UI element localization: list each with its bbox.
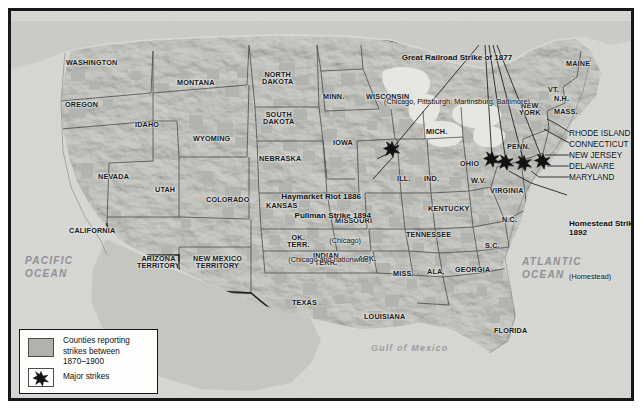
annotation-title: Homestead Strike 1892 — [569, 219, 634, 237]
state-label-california: CALIFORNIA — [69, 227, 115, 234]
state-label-illinois: ILL. — [397, 175, 411, 182]
state-label-north-carolina: N.C. — [502, 216, 517, 223]
callout-label-maryland: MARYLAND — [569, 173, 614, 182]
state-label-mississippi: MISS. — [393, 270, 414, 277]
state-label-nevada: NEVADA — [98, 173, 129, 180]
state-label-texas: TEXAS — [292, 299, 317, 306]
callout-label-delaware: DELAWARE — [569, 162, 614, 171]
annotation-homestead-strike: Homestead Strike 1892 (Homestead) — [569, 183, 634, 317]
legend-star-swatch — [28, 368, 54, 387]
state-label-idaho: IDAHO — [135, 121, 159, 128]
map-legend: Counties reporting strikes between 1870–… — [19, 329, 158, 394]
state-label-kentucky: KENTUCKY — [428, 205, 470, 212]
annotation-subtitle: (Chicago, Pittsburgh, Martinsburg, Balti… — [317, 98, 597, 106]
state-label-georgia: GEORGIA — [455, 266, 490, 273]
gulf-of-mexico-label: Gulf of Mexico — [371, 343, 448, 353]
callout-label-new-jersey: NEW JERSEY — [569, 151, 622, 160]
annotation-subtitle: (Homestead) — [569, 273, 634, 281]
state-label-florida: FLORIDA — [494, 327, 527, 334]
legend-star-label: Major strikes — [63, 372, 109, 381]
pacific-ocean-label: PACIFIC OCEAN — [25, 255, 73, 280]
annotation-great-railroad-strike: Great Railroad Strike of 1877 (Chicago, … — [317, 17, 597, 142]
state-label-virginia: VIRGINIA — [490, 187, 524, 194]
legend-shade-label: Counties reporting strikes between 1870–… — [63, 336, 130, 368]
annotation-subtitle: (Chicago and nationwide) — [151, 256, 371, 264]
state-label-wyoming: WYOMING — [193, 135, 230, 142]
state-label-north-dakota: NORTH DAKOTA — [262, 71, 293, 86]
state-label-west-virginia: W.V. — [471, 177, 486, 184]
state-label-oregon: OREGON — [65, 101, 98, 108]
state-label-pennsylvania: PENN. — [507, 143, 530, 150]
star-icon — [29, 369, 53, 386]
legend-shade-swatch — [28, 338, 54, 357]
state-label-louisiana: LOUISIANA — [364, 313, 405, 320]
state-label-ohio: OHIO — [460, 160, 479, 167]
annotation-title: Great Railroad Strike of 1877 — [317, 53, 597, 62]
state-label-montana: MONTANA — [177, 79, 215, 86]
state-label-south-dakota: SOUTH DAKOTA — [263, 111, 294, 126]
map-frame: PACIFIC OCEAN ATLANTIC OCEAN Gulf of Mex… — [8, 8, 634, 401]
state-label-south-carolina: S.C. — [485, 242, 500, 249]
state-label-washington: WASHINGTON — [66, 59, 117, 66]
annotation-pullman-strike: Pullman Strike 1894 (Chicago and nationw… — [151, 175, 371, 300]
state-label-indiana: IND. — [424, 175, 439, 182]
state-label-tennessee: TENNESSEE — [406, 231, 451, 238]
state-label-alabama: ALA. — [427, 268, 445, 275]
annotation-title: Pullman Strike 1894 — [151, 211, 371, 220]
